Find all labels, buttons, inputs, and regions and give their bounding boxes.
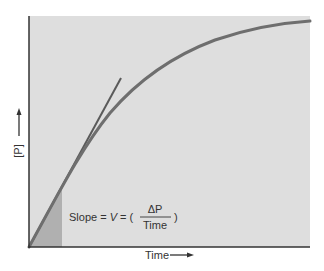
slope-prefix: Slope = <box>69 211 110 223</box>
x-axis-label: Time <box>145 249 169 261</box>
y-axis-label-group: [P] <box>12 108 24 158</box>
up-arrow-icon <box>17 108 22 115</box>
slope-equals: = ( <box>117 211 134 223</box>
fraction-numerator: ΔP <box>148 203 163 215</box>
slope-formula-line: Slope = V = ( <box>69 211 134 223</box>
y-axis-label: [P] <box>12 144 24 157</box>
fraction-denominator: Time <box>143 219 167 231</box>
x-axis-label-group: Time <box>145 249 194 261</box>
initial-velocity-diagram: [P] Time Slope = V = ( ΔP Time ) <box>0 0 324 271</box>
closing-paren: ) <box>174 211 178 223</box>
right-arrow-icon <box>187 253 194 258</box>
